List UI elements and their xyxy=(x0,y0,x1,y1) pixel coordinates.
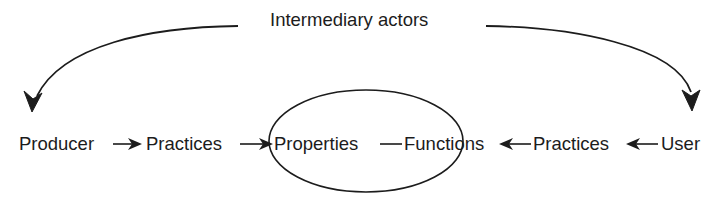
diagram-svg xyxy=(0,0,723,207)
arrow-producer-to-practices xyxy=(113,138,142,150)
producer-label: Producer xyxy=(19,135,94,154)
user-label: User xyxy=(661,135,700,154)
properties-label: Properties xyxy=(274,135,358,154)
diagram-canvas: Intermediary actors Producer Practices P… xyxy=(0,0,723,207)
practices-left-label: Practices xyxy=(146,135,222,154)
practices-right-label: Practices xyxy=(533,135,609,154)
arrow-practices-to-functions xyxy=(499,138,531,150)
arrow-user-to-practices xyxy=(626,138,658,150)
intermediary-actors-label: Intermediary actors xyxy=(270,11,428,30)
curved-arrow-to-producer xyxy=(24,26,238,112)
curved-arrow-to-user xyxy=(486,26,700,111)
functions-label: Functions xyxy=(404,135,484,154)
arrow-practices-to-properties xyxy=(240,138,273,150)
